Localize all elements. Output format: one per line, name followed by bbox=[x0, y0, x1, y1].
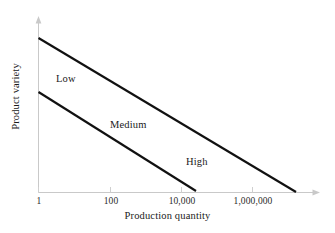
upper-boundary-line bbox=[39, 38, 297, 192]
x-tick-label-1: 100 bbox=[86, 196, 136, 207]
x-axis-arrowhead bbox=[313, 190, 321, 196]
y-axis-arrowhead bbox=[36, 16, 42, 24]
region-label-high: High bbox=[186, 156, 208, 168]
x-tick-label-2: 10,000 bbox=[154, 196, 210, 207]
region-label-low: Low bbox=[56, 73, 76, 85]
lower-boundary-line bbox=[39, 92, 197, 191]
y-axis-title: Product variety bbox=[10, 63, 21, 130]
region-label-medium: Medium bbox=[110, 119, 146, 131]
x-axis-title: Production quantity bbox=[0, 210, 335, 221]
chart-figure: Low Medium High 1 100 10,000 1,000,000 P… bbox=[0, 0, 335, 233]
x-tick-label-3: 1,000,000 bbox=[219, 196, 287, 207]
y-axis-title-wrap: Product variety bbox=[2, 0, 28, 192]
x-tick-label-0: 1 bbox=[14, 196, 64, 207]
